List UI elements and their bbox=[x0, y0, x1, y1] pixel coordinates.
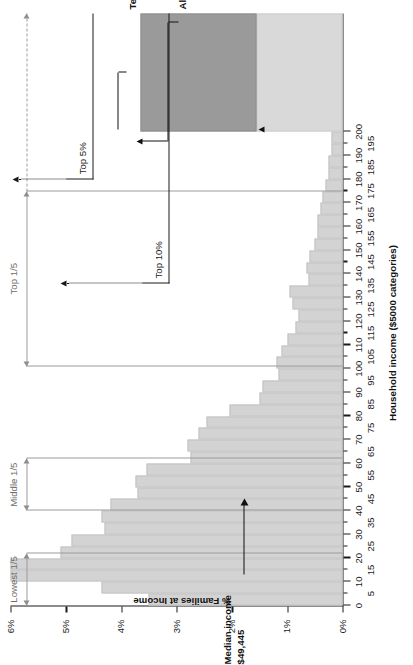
category-axis-tick-label: 120 bbox=[352, 308, 363, 334]
category-axis-tick bbox=[343, 284, 347, 285]
category-axis-tick-label: 105 bbox=[364, 343, 375, 369]
category-axis-tick bbox=[343, 249, 350, 250]
category-axis-tick bbox=[343, 568, 347, 569]
category-axis-tick-label: 190 bbox=[352, 142, 363, 168]
category-axis-tick bbox=[343, 580, 350, 581]
overflow-bar-leader-vertical bbox=[168, 21, 178, 22]
bar bbox=[317, 214, 342, 226]
category-axis-tick bbox=[343, 272, 350, 273]
quintile-boundary-line bbox=[26, 365, 342, 366]
category-axis-tick-label: 150 bbox=[352, 237, 363, 263]
category-axis-tick bbox=[343, 213, 347, 214]
bar bbox=[287, 333, 342, 345]
category-axis-tick bbox=[343, 604, 350, 605]
top-percent-label: Top 5% bbox=[76, 142, 87, 174]
median-income-label: Median income $49,445 bbox=[221, 595, 246, 664]
category-axis-tick bbox=[343, 521, 347, 522]
bar bbox=[135, 475, 343, 487]
top-percent-label: Top 10% bbox=[152, 241, 163, 278]
category-axis-tick bbox=[343, 414, 350, 415]
quintile-label: Lowest 1/5 bbox=[7, 556, 18, 602]
category-axis-tick-label: 30 bbox=[352, 521, 363, 547]
category-axis-tick-label: 115 bbox=[364, 320, 375, 346]
overflow-bar-callout-label: All income ≥ 250 bbox=[176, 0, 187, 9]
category-axis-tick bbox=[343, 355, 347, 356]
overflow-bar-leader-arrow bbox=[136, 138, 142, 144]
category-axis-tick bbox=[343, 343, 350, 344]
top-percent-bracket-riser bbox=[142, 282, 169, 283]
top-percent-bracket-riser bbox=[66, 178, 93, 179]
bar bbox=[331, 143, 342, 155]
quintile-bracket-cap bbox=[23, 458, 29, 463]
quintile-bracket-line-dashed bbox=[26, 13, 27, 191]
category-axis-tick-label: 185 bbox=[364, 154, 375, 180]
category-axis-tick-label: 70 bbox=[352, 426, 363, 452]
bar bbox=[281, 345, 342, 357]
top-percent-bracket-line bbox=[92, 13, 93, 179]
category-axis-tick-label: 0 bbox=[352, 592, 363, 618]
quintile-boundary-line bbox=[26, 552, 342, 553]
bar-series bbox=[10, 13, 342, 605]
value-axis-tick bbox=[10, 606, 11, 612]
bar bbox=[256, 13, 342, 131]
bar bbox=[140, 13, 256, 131]
category-axis-tick-label: 140 bbox=[352, 260, 363, 286]
category-axis-tick-label: 75 bbox=[364, 414, 375, 440]
category-axis-tick bbox=[343, 178, 350, 179]
value-axis-tick-label: 6% bbox=[4, 619, 15, 653]
category-axis-tick bbox=[343, 166, 347, 167]
wide-bar-leader-vertical bbox=[118, 71, 126, 72]
category-axis-tick-label: 100 bbox=[352, 355, 363, 381]
top-percent-bracket-riser-dashed bbox=[66, 282, 142, 283]
category-axis-tick-label: 90 bbox=[352, 379, 363, 405]
category-axis-tick-label: 55 bbox=[364, 462, 375, 488]
bar bbox=[331, 131, 342, 143]
category-axis-tick-label: 65 bbox=[364, 438, 375, 464]
bar bbox=[198, 427, 342, 439]
value-axis-tick-label: 0% bbox=[336, 619, 347, 653]
overflow-bar-leader-drop bbox=[140, 140, 167, 141]
top-percent-bracket-riser-dashed bbox=[18, 178, 66, 179]
bar bbox=[295, 321, 342, 333]
wide-bar-leader-arrow bbox=[258, 126, 264, 132]
category-axis-tick-label: 135 bbox=[364, 272, 375, 298]
bar bbox=[104, 522, 342, 534]
median-income-line2: $49,445 bbox=[234, 629, 245, 664]
category-axis-tick-label: 50 bbox=[352, 474, 363, 500]
category-axis-tick-label: 200 bbox=[352, 118, 363, 144]
category-axis-tick-label: 35 bbox=[364, 509, 375, 535]
category-axis-tick-label: 145 bbox=[364, 249, 375, 275]
category-axis-tick-label: 85 bbox=[364, 391, 375, 417]
bar bbox=[314, 238, 342, 250]
bar bbox=[110, 498, 342, 510]
category-axis-tick bbox=[343, 332, 347, 333]
bar bbox=[289, 285, 342, 297]
category-axis-tick-label: 110 bbox=[352, 332, 363, 358]
value-axis-tick-label: 4% bbox=[114, 619, 125, 653]
bar bbox=[262, 380, 342, 392]
wide-bar-callout-label: Ten bars wide: (200, 250) bbox=[126, 0, 137, 9]
bar bbox=[322, 191, 342, 203]
category-axis-tick-label: 5 bbox=[364, 580, 375, 606]
median-arrow-head bbox=[240, 498, 248, 505]
top-percent-bracket-arrow bbox=[12, 176, 18, 182]
bar bbox=[137, 487, 342, 499]
median-income-line1: Median income bbox=[221, 595, 232, 664]
bar bbox=[10, 570, 342, 582]
category-axis-tick bbox=[343, 438, 350, 439]
category-axis-tick bbox=[343, 154, 350, 155]
value-axis-tick bbox=[65, 606, 66, 612]
value-axis-title: % Families at Income bbox=[82, 596, 282, 607]
quintile-boundary-line bbox=[26, 457, 342, 458]
quintile-boundary-line bbox=[26, 509, 342, 510]
quintile-bracket-line bbox=[26, 553, 27, 605]
category-axis-tick bbox=[343, 201, 350, 202]
bar bbox=[298, 309, 342, 321]
category-axis-tick-label: 195 bbox=[364, 130, 375, 156]
bar bbox=[278, 368, 342, 380]
category-axis-tick-label: 160 bbox=[352, 213, 363, 239]
top-percent-bracket-arrow bbox=[60, 280, 66, 286]
category-axis-tick bbox=[343, 497, 347, 498]
overflow-bar-leader-horizontal bbox=[167, 22, 168, 140]
category-axis-tick-label: 175 bbox=[364, 178, 375, 204]
